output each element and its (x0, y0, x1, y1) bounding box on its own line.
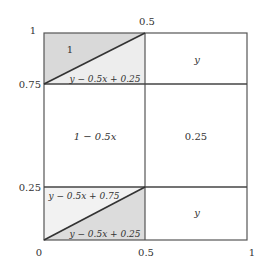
region-label-middle-right: 0.25 (185, 131, 207, 142)
y-tick-0.75: 0.75 (19, 79, 41, 90)
x-tick-0: 0 (36, 247, 42, 258)
region-label-middle-left: 1 − 0.5x (74, 131, 117, 142)
top-tick-0.5: 0.5 (139, 16, 155, 27)
y-tick-0.25: 0.25 (19, 182, 41, 193)
y-tick-1: 1 (30, 25, 36, 36)
region-label-top-left-upper: 1 (67, 44, 73, 55)
region-label-top-left-lower: y − 0.5x + 0.25 (68, 74, 140, 84)
region-diagram: 1 0.75 0.25 0.5 0 0.5 1 1 y − 0.5x + 0.2… (0, 0, 266, 269)
x-tick-0.5: 0.5 (138, 247, 154, 258)
region-label-bottom-left-lower: y − 0.5x + 0.25 (68, 229, 140, 239)
x-tick-1: 1 (249, 247, 255, 258)
region-label-top-right: y (193, 54, 200, 65)
region-label-bottom-left-upper: y − 0.5x + 0.75 (47, 191, 119, 201)
region-label-bottom-right: y (193, 207, 200, 218)
